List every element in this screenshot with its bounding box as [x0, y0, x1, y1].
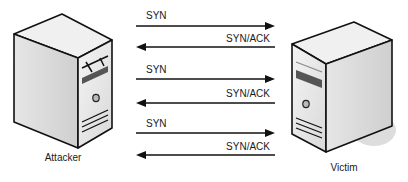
- message-label: SYN/ACK: [226, 89, 270, 99]
- message-label: SYN/ACK: [226, 142, 270, 152]
- message-label: SYN/ACK: [226, 34, 270, 44]
- arrow-right-2: [136, 75, 275, 83]
- arrow-right-3: [136, 129, 275, 137]
- victim-server-icon: [292, 22, 396, 152]
- syn-flood-diagram: SYN SYN/ACK SYN SYN/ACK SYN SYN/ACK Atta…: [0, 0, 408, 182]
- arrow-left-2: [136, 99, 275, 107]
- attacker-server-icon: [14, 14, 112, 148]
- arrow-left-1: [136, 43, 275, 51]
- arrow-right-1: [136, 22, 275, 30]
- message-label: SYN: [146, 65, 167, 75]
- message-label: SYN: [146, 11, 167, 21]
- arrow-left-3: [136, 151, 275, 159]
- attacker-label: Attacker: [45, 153, 82, 163]
- victim-label: Victim: [330, 163, 357, 173]
- message-label: SYN: [146, 119, 167, 129]
